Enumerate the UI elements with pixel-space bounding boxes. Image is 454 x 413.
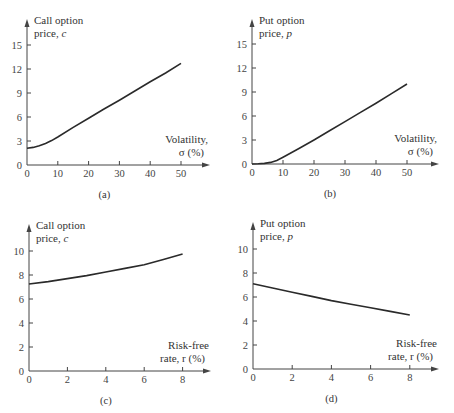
x-tick-label: 8 <box>180 374 185 385</box>
y-tick-label: 2 <box>19 342 24 353</box>
y-tick-label: 12 <box>237 63 248 74</box>
y-axis-label: Put option <box>260 217 306 229</box>
x-tick-label: 0 <box>26 374 31 385</box>
y-axis-label: Call option <box>34 14 84 26</box>
y-tick-label: 10 <box>238 244 249 255</box>
y-tick-label: 0 <box>243 364 248 375</box>
y-tick-label: 6 <box>242 111 247 122</box>
y-tick-label: 9 <box>242 87 247 98</box>
price-curve <box>252 84 407 164</box>
y-axis-label: price, p <box>259 27 292 39</box>
y-tick-label: 15 <box>237 39 248 50</box>
y-tick-label: 6 <box>17 112 22 123</box>
y-tick-label: 4 <box>243 316 249 327</box>
x-tick-label: 0 <box>249 167 254 178</box>
y-axis-label: price, c <box>34 27 66 39</box>
x-axis-arrow-icon <box>202 163 210 168</box>
x-tick-label: 30 <box>114 168 125 179</box>
chart-panel-c: 024680246810Call optionprice, cRisk-free… <box>14 219 212 407</box>
x-tick-label: 6 <box>368 372 373 383</box>
y-axis-arrow-icon <box>251 222 256 230</box>
price-curve <box>27 63 181 148</box>
x-axis-label: Risk-free <box>168 339 209 351</box>
x-tick-label: 0 <box>24 168 29 179</box>
x-tick-label: 10 <box>278 167 289 178</box>
panel-caption: (a) <box>99 189 111 201</box>
x-tick-label: 10 <box>53 168 64 179</box>
y-tick-label: 3 <box>17 136 22 147</box>
x-axis-arrow-icon <box>431 162 439 167</box>
y-tick-label: 0 <box>17 160 22 171</box>
x-axis-label: Volatility, <box>394 132 437 144</box>
y-tick-label: 8 <box>19 270 24 281</box>
chart-panel-a: 0102030405003691215Call optionprice, cVo… <box>12 14 211 201</box>
price-curve <box>29 254 183 284</box>
y-tick-label: 8 <box>243 268 248 279</box>
x-axis-label: Risk-free <box>396 337 437 349</box>
x-axis-label: rate, r (%) <box>160 352 205 365</box>
panel-caption: (c) <box>100 395 112 407</box>
y-tick-label: 9 <box>17 88 22 99</box>
panel-caption: (d) <box>325 393 338 405</box>
x-tick-label: 0 <box>250 372 255 383</box>
x-tick-label: 50 <box>176 168 187 179</box>
y-tick-label: 12 <box>12 64 23 75</box>
panel-caption: (b) <box>324 188 337 200</box>
x-tick-label: 50 <box>402 167 413 178</box>
y-tick-label: 15 <box>12 40 23 51</box>
y-axis-arrow-icon <box>250 19 255 27</box>
x-tick-label: 2 <box>290 372 295 383</box>
x-tick-label: 30 <box>340 167 351 178</box>
x-tick-label: 20 <box>309 167 320 178</box>
y-tick-label: 4 <box>19 318 25 329</box>
y-tick-label: 0 <box>242 159 247 170</box>
option-price-sensitivity-figure: 0102030405003691215Call optionprice, cVo… <box>0 0 454 413</box>
x-tick-label: 4 <box>103 374 109 385</box>
y-tick-label: 10 <box>14 246 25 257</box>
y-tick-label: 3 <box>242 135 247 146</box>
x-tick-label: 20 <box>83 168 94 179</box>
x-tick-label: 4 <box>329 372 335 383</box>
price-curve <box>253 284 410 315</box>
x-axis-label: Volatility, <box>165 133 208 145</box>
y-axis-label: Call option <box>36 219 86 231</box>
x-axis-label: σ (%) <box>179 146 205 159</box>
x-tick-label: 2 <box>65 374 70 385</box>
chart-panel-b: 0102030405003691215Put optionprice, pVol… <box>237 14 440 200</box>
x-axis-arrow-icon <box>431 367 439 372</box>
y-axis-label: price, c <box>36 232 68 244</box>
y-tick-label: 6 <box>243 292 248 303</box>
x-axis-label: rate, r (%) <box>388 350 433 363</box>
y-axis-label: Put option <box>259 14 305 26</box>
x-tick-label: 6 <box>142 374 147 385</box>
y-tick-label: 2 <box>243 340 248 351</box>
y-axis-arrow-icon <box>25 19 30 27</box>
chart-panel-d: 024680246810Put optionprice, pRisk-freer… <box>238 217 440 405</box>
x-tick-label: 40 <box>371 167 382 178</box>
y-axis-arrow-icon <box>27 224 32 232</box>
y-tick-label: 6 <box>19 294 24 305</box>
x-tick-label: 8 <box>407 372 412 383</box>
x-tick-label: 40 <box>145 168 156 179</box>
x-axis-label: σ (%) <box>408 145 434 158</box>
y-axis-label: price, p <box>260 230 293 242</box>
y-tick-label: 0 <box>19 366 24 377</box>
x-axis-arrow-icon <box>203 369 211 374</box>
